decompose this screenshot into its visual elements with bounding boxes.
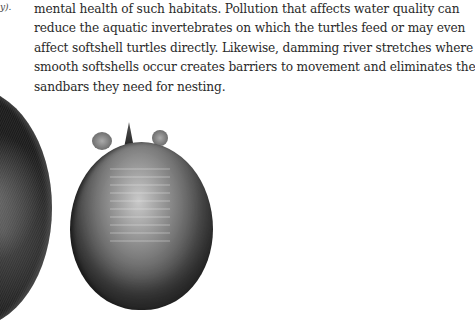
left-shell-photo bbox=[0, 88, 52, 324]
left-flipper-shape bbox=[92, 132, 112, 150]
paragraph-line: affect softshell turtles directly. Likew… bbox=[34, 39, 422, 58]
paragraph-line: reduce the aquatic invertebrates on whic… bbox=[34, 19, 422, 38]
shell-shape bbox=[70, 142, 213, 310]
paragraph-line: smooth softshells occur creates barriers… bbox=[34, 58, 422, 77]
paragraph-line: mental health of such habitats. Pollutio… bbox=[34, 0, 422, 19]
caption-fragment: y). bbox=[0, 2, 11, 12]
body-paragraph: mental health of such habitats. Pollutio… bbox=[34, 0, 422, 97]
right-shell-photo bbox=[68, 122, 216, 312]
paragraph-line: sandbars they need for nesting. bbox=[34, 78, 422, 97]
